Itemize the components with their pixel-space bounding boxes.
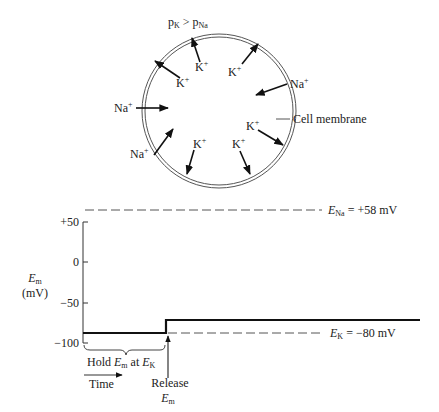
tick-label: +50 (60, 215, 79, 229)
permeability-title: pK > pNa (168, 15, 208, 30)
k-out-arrow (240, 151, 250, 174)
svg-text:Na+: Na+ (290, 76, 309, 91)
svg-text:K+: K+ (176, 75, 190, 90)
ena-label: ENa = +58 mV (327, 203, 398, 218)
svg-text:K+: K+ (195, 59, 209, 74)
cell-membrane (142, 34, 296, 188)
y-axis-label: Em (27, 271, 42, 286)
y-axis-units: (mV) (22, 286, 48, 300)
hold-brace (84, 345, 165, 355)
k-out-arrow (187, 150, 194, 174)
svg-text:Na+: Na+ (130, 146, 149, 161)
svg-text:Na+: Na+ (114, 100, 133, 115)
k-out-arrow (192, 38, 200, 62)
svg-text:K+: K+ (193, 136, 207, 151)
graph: ENa = +58 mV +50 0 −50 −100 Em (mV) EK =… (22, 203, 420, 406)
time-label: Time (89, 377, 114, 391)
release-label: Release (151, 376, 188, 390)
hold-label: Hold Em at EK (87, 355, 156, 370)
membrane-label: Cell membrane (293, 112, 367, 126)
ek-label: EK = −80 mV (329, 326, 396, 341)
k-out-arrow (258, 130, 283, 145)
tick-label: 0 (73, 255, 79, 269)
svg-text:K+: K+ (228, 64, 242, 79)
tick-label: −50 (60, 296, 79, 310)
na-in-arrow (256, 84, 287, 95)
na-in-arrow (154, 129, 173, 155)
release-em-label: Em (160, 391, 175, 406)
tick-label: −100 (54, 336, 79, 350)
k-out-arrow (242, 44, 258, 64)
svg-text:K+: K+ (246, 118, 260, 133)
svg-text:K+: K+ (232, 136, 246, 151)
ion-labels: K+ K+ K+ Na+ Na+ Na+ K+ K+ K+ (114, 59, 309, 161)
diagram: pK > pNa Cell membrane K+ K+ K+ Na+ Na+ … (0, 0, 439, 412)
